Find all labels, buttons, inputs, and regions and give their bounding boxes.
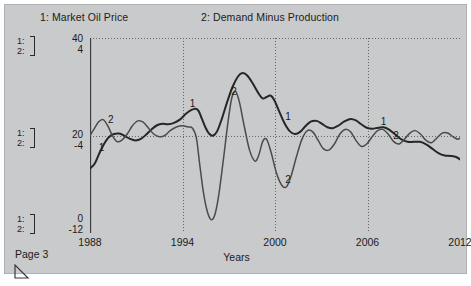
- scale-bracket-bottom-line1: 1:: [17, 214, 25, 224]
- series-tag-2: 2: [393, 130, 399, 141]
- x-tick-1988: 1988: [67, 236, 113, 248]
- series-paths: [90, 73, 460, 220]
- x-tick-2012: 2012: [437, 236, 471, 248]
- scale-bracket-mid-line1: 1:: [17, 128, 25, 138]
- scale-bracket-edge-icon: [30, 214, 35, 234]
- series-tag-1: 1: [190, 98, 196, 109]
- series-line-2: [90, 91, 460, 219]
- graph-window: 1: Market Oil Price 2: Demand Minus Prod…: [4, 4, 467, 274]
- x-tick-2006: 2006: [345, 236, 391, 248]
- plot-area[interactable]: 11112222: [90, 38, 460, 233]
- y-axis-top-scale2: 4: [49, 44, 83, 55]
- series-tag-1: 1: [99, 142, 105, 153]
- scale-bracket-bottom-line2: 2:: [17, 224, 25, 234]
- y-axis-mid-scale1: 20: [49, 129, 83, 140]
- scale-bracket-top[interactable]: 1: 2:: [17, 35, 43, 59]
- page-label[interactable]: Page 3: [15, 248, 48, 260]
- resize-corner-icon[interactable]: [14, 264, 30, 279]
- scale-bracket-mid-line2: 2:: [17, 138, 25, 148]
- y-axis-labels-top: 40 4: [49, 33, 83, 55]
- y-axis-labels-mid: 20 -4: [49, 129, 83, 151]
- y-axis-labels-bottom: 0 -12: [49, 213, 83, 235]
- scale-bracket-edge-icon: [30, 36, 35, 56]
- series-tag-2: 2: [285, 174, 291, 185]
- chart-canvas: 11112222: [90, 38, 460, 233]
- series-tag-2: 2: [231, 86, 237, 97]
- legend-row: 1: Market Oil Price 2: Demand Minus Prod…: [5, 11, 466, 27]
- y-axis-top-scale1: 40: [49, 33, 83, 44]
- y-axis-mid-scale2: -4: [49, 140, 83, 151]
- x-tick-1994: 1994: [160, 236, 206, 248]
- scale-bracket-mid[interactable]: 1: 2:: [17, 127, 43, 151]
- series-tag-2: 2: [108, 114, 114, 125]
- series-inline-tags: 11112222: [99, 86, 400, 185]
- legend-entry-market-oil-price[interactable]: 1: Market Oil Price: [40, 11, 128, 23]
- x-axis-title: Years: [5, 251, 468, 263]
- series-line-1: [90, 73, 460, 169]
- scale-bracket-top-line2: 2:: [17, 46, 25, 56]
- x-tick-2000: 2000: [252, 236, 298, 248]
- scale-bracket-edge-icon: [30, 128, 35, 148]
- y-axis-bottom-scale2: -12: [49, 224, 83, 235]
- legend-entry-demand-minus-production[interactable]: 2: Demand Minus Production: [201, 11, 339, 23]
- series-tag-1: 1: [285, 111, 291, 122]
- series-tag-1: 1: [381, 116, 387, 127]
- scale-bracket-bottom[interactable]: 1: 2:: [17, 213, 43, 237]
- scale-bracket-top-line1: 1:: [17, 36, 25, 46]
- y-axis-bottom-scale1: 0: [49, 213, 83, 224]
